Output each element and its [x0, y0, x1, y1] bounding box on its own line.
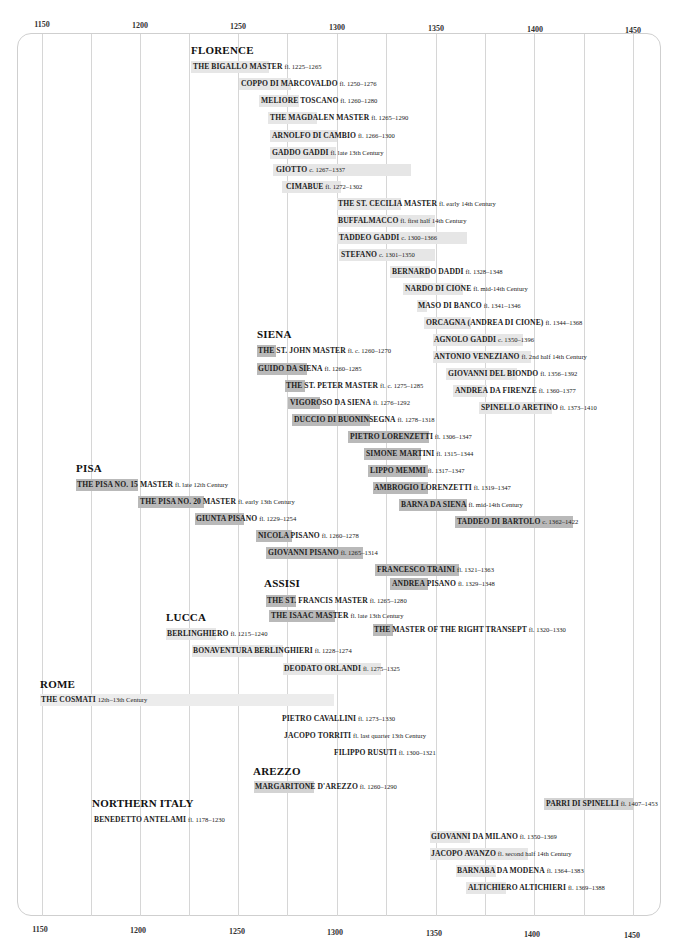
gridline	[534, 34, 535, 916]
artist-label: SIMONE MARTINI fl. 1315–1344	[366, 448, 473, 460]
artist-label: AMBROGIO LORENZETTI fl. 1319–1347	[374, 482, 511, 494]
artist-label: ANDREA PISANO fl. 1329–1348	[392, 578, 495, 590]
artist-label: DUCCIO DI BUONINSEGNA fl. 1278–1318	[294, 414, 435, 426]
gridline	[485, 34, 486, 916]
artist-label: THE MAGDALEN MASTER fl. 1265–1290	[270, 112, 408, 124]
axis-bottom-1350: 1350	[426, 929, 442, 938]
artist-label: BARNA DA SIENA fl. mid-14th Century	[401, 499, 523, 511]
axis-bottom-1200: 1200	[130, 926, 146, 935]
artist-label: FILIPPO RUSUTI fl. 1300–1321	[334, 747, 436, 759]
artist-label: GIOVANNI PISANO fl. 1265–1314	[268, 547, 378, 559]
axis-top-1350: 1350	[428, 24, 444, 33]
artist-label: ALTICHIERO ALTICHIERI fl. 1369–1388	[468, 882, 605, 894]
artist-label: SPINELLO ARETINO fl. 1373–1410	[481, 402, 597, 414]
artist-label: NARDO DI CIONE fl. mid-14th Century	[405, 283, 528, 295]
axis-top-1200: 1200	[132, 21, 148, 30]
artist-label: JACOPO TORRITI fl. last quarter 13th Cen…	[284, 730, 426, 742]
artist-label: THE ST. JOHN MASTER fl. c. 1260–1270	[258, 345, 391, 357]
gridline	[238, 34, 239, 916]
axis-bottom-1300: 1300	[327, 928, 343, 937]
artist-label: PIETRO LORENZETTI fl. 1306–1347	[350, 431, 472, 443]
region-heading-lucca: LUCCA	[166, 611, 206, 623]
artist-label: TADDEO GADDI c. 1300–1366	[339, 232, 437, 244]
artist-label: THE PISA NO. 15 MASTER fl. late 12th Cen…	[77, 479, 228, 491]
region-heading-pisa: PISA	[76, 462, 102, 474]
artist-label: ARNOLFO DI CAMBIO fl. 1266–1300	[272, 130, 395, 142]
artist-label: BONAVENTURA BERLINGHIERI fl. 1228–1274	[193, 645, 352, 657]
artist-label: ORCAGNA (ANDREA DI CIONE) fl. 1344–1368	[426, 317, 582, 329]
artist-label: GIOVANNI DEL BIONDO fl. 1356–1392	[448, 368, 577, 380]
artist-label: FRANCESCO TRAINI fl. 1321–1363	[377, 564, 494, 576]
artist-label: PARRI DI SPINELLI fl. 1407–1453	[546, 798, 658, 810]
gridline	[42, 34, 43, 916]
artist-label: VIGOROSO DA SIENA fl. 1276–1292	[290, 397, 410, 409]
artist-label: MELIORE TOSCANO fl. 1260–1280	[261, 95, 377, 107]
region-heading-northern-italy: NORTHERN ITALY	[92, 797, 194, 809]
artist-label: MARGARITONE D'AREZZO fl. 1260–1290	[255, 781, 397, 793]
artist-label: CIMABUE fl. 1272–1302	[286, 181, 362, 193]
artist-label: GADDO GADDI fl. late 13th Century	[272, 147, 384, 159]
artist-label: THE MASTER OF THE RIGHT TRANSEPT fl. 132…	[374, 624, 566, 636]
axis-top-1150: 1150	[34, 20, 50, 29]
artist-label: THE PISA NO. 20 MASTER fl. early 13th Ce…	[140, 496, 295, 508]
axis-bottom-1250: 1250	[229, 927, 245, 936]
artist-label: ANTONIO VENEZIANO fl. 2nd half 14th Cent…	[434, 351, 587, 363]
artist-label: BERLINGHIERO fl. 1215–1240	[167, 628, 267, 640]
region-heading-siena: SIENA	[257, 328, 292, 340]
artist-label: THE BIGALLO MASTER fl. 1225–1265	[193, 61, 321, 73]
axis-top-1300: 1300	[329, 23, 345, 32]
axis-bottom-1400: 1400	[524, 930, 540, 939]
artist-label: LIPPO MEMMI fl. 1317–1347	[370, 465, 465, 477]
region-heading-arezzo: AREZZO	[253, 765, 301, 777]
region-heading-florence: FLORENCE	[191, 44, 254, 56]
region-heading-rome: ROME	[40, 678, 75, 690]
artist-label: GIUNTA PISANO fl. 1229–1254	[196, 513, 296, 525]
gridline	[584, 34, 585, 916]
artist-label: GUIDO DA SIENA fl. 1260–1285	[258, 363, 362, 375]
gridline	[140, 34, 141, 916]
gridline	[91, 34, 92, 916]
artist-label: BERNARDO DADDI fl. 1328–1348	[392, 266, 503, 278]
axis-bottom-1450: 1450	[624, 931, 640, 940]
artist-label: GIOTTO c. 1267–1337	[276, 164, 345, 176]
artist-label: BARNABA DA MODENA fl. 1364–1383	[457, 865, 584, 877]
region-heading-assisi: ASSISI	[264, 577, 300, 589]
artist-label: DEODATO ORLANDI fl. 1275–1325	[284, 663, 400, 675]
artist-label: BENEDETTO ANTELAMI fl. 1178–1230	[94, 814, 225, 826]
axis-top-1250: 1250	[230, 22, 246, 31]
artist-label: PIETRO CAVALLINI fl. 1273–1330	[282, 713, 395, 725]
artist-label: MASO DI BANCO fl. 1341–1346	[418, 300, 521, 312]
artist-label: TADDEO DI BARTOLO c. 1362–1422	[457, 516, 578, 528]
artist-label: THE ST. FRANCIS MASTER fl. 1265–1280	[267, 595, 407, 607]
artist-label: NICOLA PISANO fl. 1260–1278	[258, 530, 359, 542]
artist-label: THE ST. CECILIA MASTER fl. early 14th Ce…	[338, 198, 496, 210]
axis-bottom-1150: 1150	[32, 925, 48, 934]
artist-label: GIOVANNI DA MILANO fl. 1350–1369	[431, 831, 557, 843]
gridline	[633, 34, 634, 916]
artist-label: STEFANO c. 1301–1350	[341, 249, 415, 261]
artist-label: THE COSMATI 12th–13th Century	[41, 694, 147, 706]
artist-label: AGNOLO GADDI c. 1350–1396	[434, 334, 534, 346]
artist-label: THE ISAAC MASTER fl. late 13th Century	[271, 610, 404, 622]
gridline	[189, 34, 190, 916]
artist-label: COPPO DI MARCOVALDO fl. 1250–1276	[241, 78, 377, 90]
artist-label: BUFFALMACCO fl. first half 14th Century	[338, 215, 466, 227]
artist-label: JACOPO AVANZO fl. second half 14th Centu…	[431, 848, 572, 860]
artist-label: ANDREA DA FIRENZE fl. 1360–1377	[455, 385, 576, 397]
artist-label: THE ST. PETER MASTER fl. c. 1275–1285	[286, 380, 423, 392]
